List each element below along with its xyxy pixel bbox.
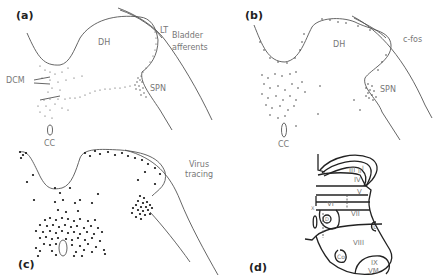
central-canal (59, 240, 67, 256)
label-lamina-IV: IV (354, 176, 361, 184)
label-lamina-III: III (349, 166, 355, 174)
label-il: IL (372, 224, 376, 230)
label-spn: SPN (150, 84, 166, 93)
dcm-fibers (34, 77, 60, 100)
gray-matter-outline (20, 149, 166, 196)
label-tracing: tracing (185, 170, 213, 179)
central-canal (48, 125, 53, 135)
panel-d-label: (d) (249, 261, 267, 274)
panel-a: (a) (6, 8, 212, 148)
white-matter-border (352, 16, 432, 118)
spinal-cord-figure: (a) (0, 0, 438, 280)
c-fos-cells (259, 18, 387, 127)
label-lamina-VI: VI (327, 200, 334, 208)
panel-c-label: (c) (18, 258, 35, 271)
panel-b: (b) DH c-fos (245, 9, 432, 149)
label-dh: DH (333, 40, 345, 49)
label-vm: VM (368, 267, 379, 275)
label-virus: Virus (189, 160, 209, 169)
afferent-terminals (37, 31, 156, 118)
label-lt: LT (160, 26, 168, 35)
panel-d: (d) I II III IV V VI (249, 154, 392, 275)
white-matter-border (118, 8, 212, 120)
label-dcm: DCM (6, 76, 25, 85)
panel-c: (c) Virus tracing (18, 149, 218, 275)
label-lamina-V: V (357, 188, 362, 196)
label-c-fos: c-fos (403, 35, 422, 44)
label-bladder: Bladder (172, 31, 204, 40)
label-afferents: afferents (172, 43, 208, 52)
label-lamina-VIII: VIII (353, 239, 364, 247)
label-lamina-II: II (358, 167, 362, 174)
label-lamina-X: X (311, 205, 315, 211)
label-lamina-VII: VII (351, 210, 360, 218)
gray-matter-outline (27, 16, 172, 130)
central-canal (313, 216, 317, 228)
label-cc: CC (44, 139, 56, 148)
panel-a-label: (a) (16, 9, 33, 22)
gray-matter-outline (254, 19, 400, 140)
dorsal-midline (318, 154, 325, 172)
label-spn: SPN (380, 85, 396, 94)
label-lamina-IX: IX (371, 259, 378, 267)
label-cc: CC (278, 140, 290, 149)
label-co: Co (337, 253, 345, 260)
label-d: D (325, 216, 329, 222)
label-dh: DH (98, 38, 110, 47)
label-lamina-I: I (362, 164, 364, 171)
panel-b-label: (b) (245, 9, 263, 22)
virus-labeled-cells (19, 150, 161, 257)
central-canal (282, 123, 287, 137)
